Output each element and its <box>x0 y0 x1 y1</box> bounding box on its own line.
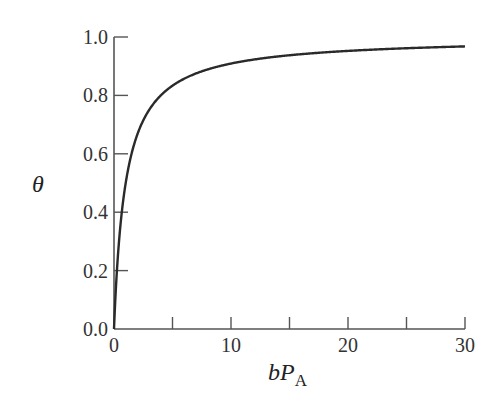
langmuir-curve <box>114 46 465 329</box>
y-axis-label: θ <box>32 171 44 197</box>
x-tick-label: 10 <box>221 334 241 356</box>
y-axis-ticks: 0.00.20.40.60.81.0 <box>83 26 128 340</box>
x-axis-label: bPA <box>268 359 308 390</box>
x-tick-label: 30 <box>455 334 475 356</box>
x-tick-label: 0 <box>109 334 119 356</box>
x-axis-ticks: 0102030 <box>109 317 475 356</box>
y-tick-label: 0.2 <box>83 260 108 282</box>
y-tick-label: 1.0 <box>83 26 108 48</box>
axes <box>114 37 465 329</box>
y-tick-label: 0.6 <box>83 143 108 165</box>
x-tick-label: 20 <box>338 334 358 356</box>
y-tick-label: 0.4 <box>83 201 108 223</box>
y-tick-label: 0.8 <box>83 84 108 106</box>
chart: 0.00.20.40.60.81.0 0102030 θ bPA <box>0 0 496 402</box>
y-tick-label: 0.0 <box>83 318 108 340</box>
